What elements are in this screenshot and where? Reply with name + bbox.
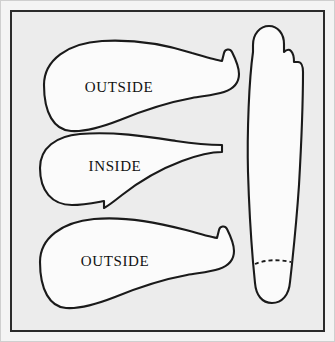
pattern-drawing: OUTSIDE INSIDE OUTSIDE <box>10 10 325 332</box>
piece-tongue-strip[interactable] <box>248 26 303 303</box>
pattern-plate: OUTSIDE INSIDE OUTSIDE <box>10 10 325 332</box>
piece-label-outside-bottom: OUTSIDE <box>81 253 149 269</box>
piece-label-outside-top: OUTSIDE <box>85 79 153 95</box>
piece-label-inside-middle: INSIDE <box>89 158 142 174</box>
diagram-page: OUTSIDE INSIDE OUTSIDE <box>0 0 335 342</box>
